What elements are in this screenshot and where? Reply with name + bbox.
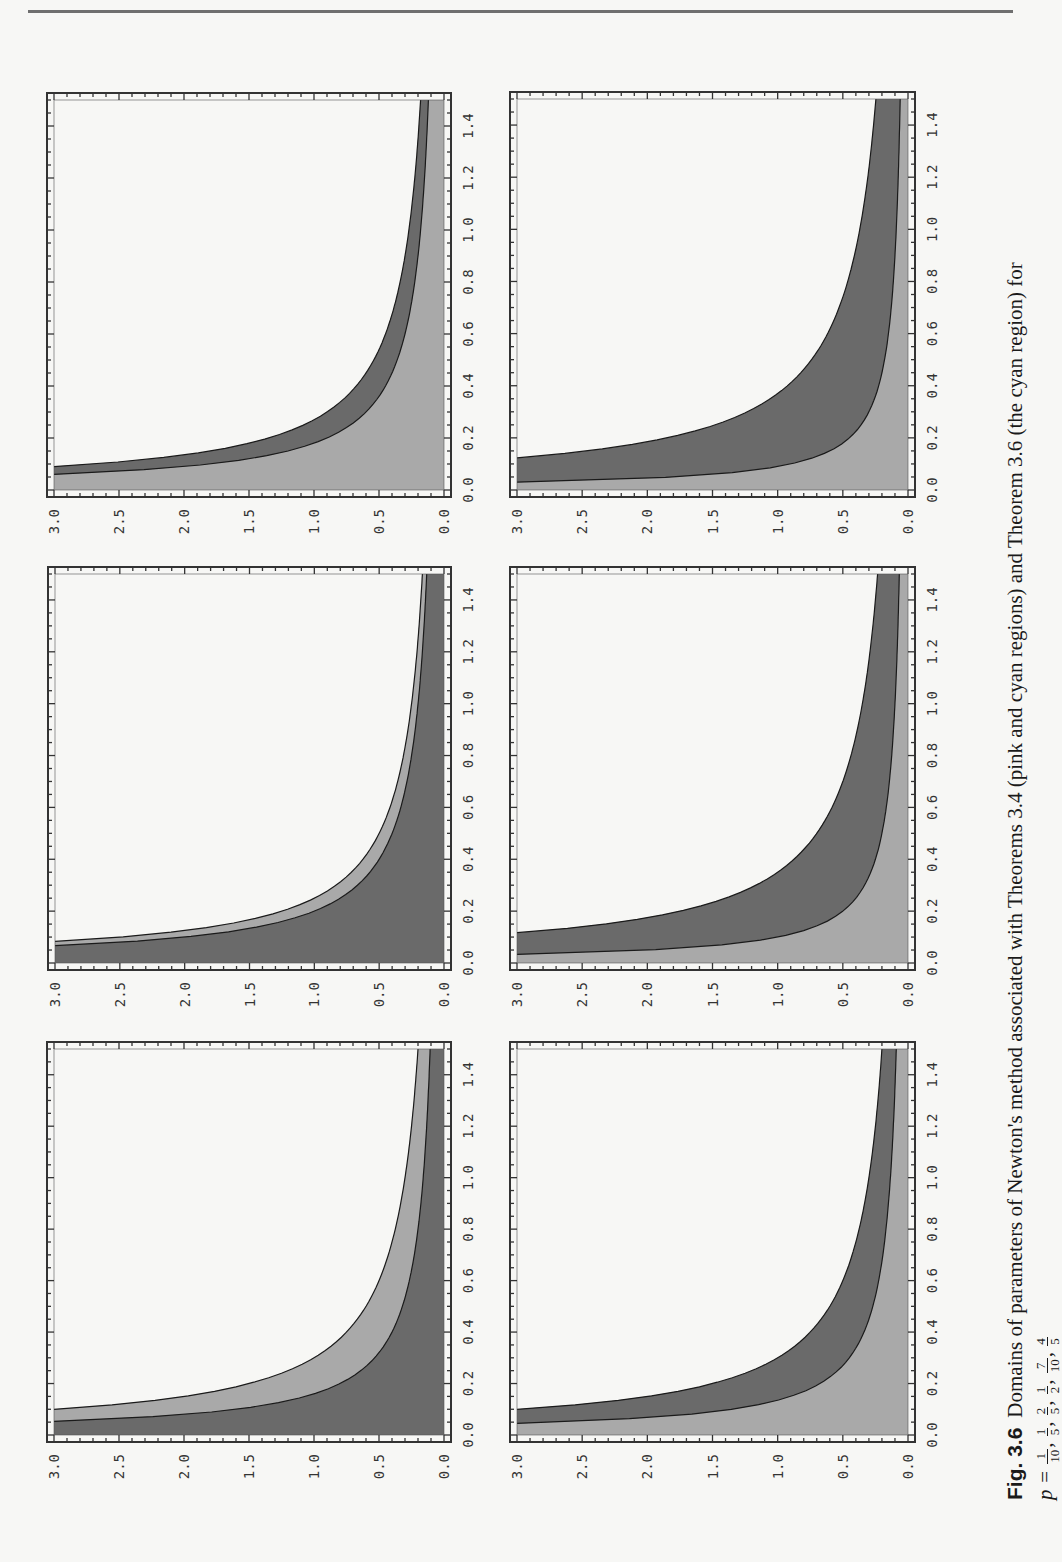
x-tick-label: 0.2: [460, 1371, 476, 1396]
y-tick-label: 2.5: [574, 509, 590, 534]
p-value-list: 110, 15, 25, 12, 710, 45: [1033, 1336, 1057, 1465]
figure-label: Fig. 3.6: [1003, 1428, 1026, 1500]
y-tick-label: 0.5: [835, 509, 851, 534]
x-tick-label: 0.4: [924, 847, 940, 872]
fraction-denominator: 2: [1048, 1386, 1061, 1395]
x-tick-label: 0.0: [924, 1422, 940, 1447]
x-tick-label: 0.0: [924, 950, 940, 975]
y-tick-label: 3.0: [509, 1454, 525, 1479]
y-tick-label: 2.5: [574, 982, 590, 1007]
y-tick-label: 3.0: [509, 509, 525, 534]
panel-p-4-5: 0.00.51.01.52.02.53.00.00.20.40.60.81.01…: [509, 92, 940, 534]
fraction-denominator: 10: [1048, 1358, 1061, 1373]
x-tick-label: 0.8: [924, 1216, 940, 1241]
y-tick-label: 2.0: [177, 982, 193, 1007]
x-tick-label: 0.4: [924, 373, 940, 398]
p-value-fraction: 25: [1034, 1407, 1061, 1416]
y-tick-label: 0.5: [371, 982, 387, 1007]
band-region: [517, 99, 908, 490]
y-tick-label: 2.0: [639, 509, 655, 534]
separator: ,: [1033, 1347, 1057, 1358]
x-tick-label: 1.0: [460, 217, 476, 242]
x-tick-label: 1.0: [924, 217, 940, 242]
x-tick-label: 1.4: [460, 113, 476, 138]
x-tick-label: 0.8: [924, 269, 940, 294]
panel-p-2-5: 0.00.51.01.52.02.53.00.00.20.40.60.81.01…: [46, 93, 476, 534]
panel-p-1-2: 0.00.51.01.52.02.53.00.00.20.40.60.81.01…: [509, 1042, 940, 1479]
fraction-numerator: 2: [1034, 1407, 1048, 1416]
y-tick-label: 2.5: [111, 509, 127, 534]
fraction-denominator: 10: [1048, 1449, 1061, 1464]
x-tick-label: 0.8: [924, 743, 940, 768]
y-tick-label: 1.0: [306, 1454, 322, 1479]
x-tick-label: 0.0: [924, 477, 940, 502]
inner-region: [55, 574, 444, 963]
fraction-numerator: 7: [1034, 1358, 1048, 1373]
p-value-fraction: 710: [1034, 1358, 1061, 1373]
y-tick-label: 0.0: [436, 1454, 452, 1479]
y-tick-label: 3.0: [46, 1454, 62, 1479]
p-value-fraction: 15: [1034, 1428, 1061, 1437]
x-tick-label: 0.2: [460, 425, 476, 450]
caption-text: Domains of parameters of Newton's method…: [1003, 262, 1027, 1417]
x-tick-label: 1.2: [460, 165, 476, 190]
fraction-denominator: 5: [1048, 1407, 1061, 1416]
x-tick-label: 0.8: [460, 269, 476, 294]
y-tick-label: 0.0: [436, 509, 452, 534]
x-tick-label: 1.0: [460, 1165, 476, 1190]
fraction-numerator: 1: [1034, 1428, 1048, 1437]
y-tick-label: 0.0: [436, 982, 452, 1007]
x-tick-label: 0.4: [460, 1319, 476, 1344]
x-tick-label: 1.4: [460, 1062, 476, 1087]
x-tick-label: 0.8: [460, 743, 476, 768]
x-tick-label: 1.0: [460, 691, 476, 716]
y-tick-label: 1.5: [705, 1454, 721, 1479]
panel-p-1-5: 0.00.51.01.52.02.53.00.00.20.40.60.81.01…: [47, 567, 476, 1007]
x-tick-label: 0.4: [924, 1319, 940, 1344]
separator: ,: [1033, 1374, 1057, 1385]
x-tick-label: 1.4: [924, 1062, 940, 1087]
p-value-fraction: 12: [1034, 1386, 1061, 1395]
x-tick-label: 1.0: [924, 1165, 940, 1190]
x-tick-label: 0.8: [460, 1216, 476, 1241]
x-tick-label: 0.6: [924, 795, 940, 820]
y-tick-label: 1.0: [770, 982, 786, 1007]
y-tick-label: 1.0: [306, 509, 322, 534]
fraction-numerator: 1: [1034, 1449, 1048, 1464]
y-tick-label: 0.5: [835, 1454, 851, 1479]
x-tick-label: 0.2: [924, 898, 940, 923]
y-tick-label: 1.5: [242, 982, 258, 1007]
separator: ,: [1033, 1416, 1057, 1427]
p-value-fraction: 45: [1034, 1337, 1061, 1346]
y-tick-label: 0.0: [900, 509, 916, 534]
y-tick-label: 2.0: [176, 1454, 192, 1479]
separator: ,: [1033, 1437, 1057, 1448]
p-prefix: p =: [1033, 1470, 1057, 1500]
y-tick-label: 1.0: [770, 509, 786, 534]
y-tick-label: 1.5: [241, 1454, 257, 1479]
fraction-denominator: 5: [1048, 1337, 1061, 1346]
y-tick-label: 3.0: [509, 982, 525, 1007]
y-tick-label: 1.5: [241, 509, 257, 534]
y-tick-label: 2.5: [574, 1454, 590, 1479]
y-tick-label: 2.0: [639, 982, 655, 1007]
y-tick-label: 2.0: [176, 509, 192, 534]
y-tick-label: 0.5: [835, 982, 851, 1007]
y-tick-label: 1.5: [705, 509, 721, 534]
x-tick-label: 0.6: [924, 321, 940, 346]
y-tick-label: 3.0: [47, 982, 63, 1007]
fraction-numerator: 1: [1034, 1386, 1048, 1395]
x-tick-label: 0.0: [460, 950, 476, 975]
x-tick-label: 1.2: [460, 1114, 476, 1139]
x-tick-label: 0.2: [460, 898, 476, 923]
x-tick-label: 1.2: [924, 639, 940, 664]
p-value-fraction: 110: [1034, 1449, 1061, 1464]
x-tick-label: 0.6: [460, 1268, 476, 1293]
x-tick-label: 1.4: [460, 587, 476, 612]
x-tick-label: 1.4: [924, 587, 940, 612]
y-tick-label: 0.5: [371, 1454, 387, 1479]
x-tick-label: 0.2: [924, 1371, 940, 1396]
x-tick-label: 0.4: [460, 847, 476, 872]
y-tick-label: 0.0: [900, 1454, 916, 1479]
